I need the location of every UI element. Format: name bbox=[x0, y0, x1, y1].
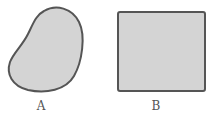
shape-b-square bbox=[118, 12, 205, 91]
shape-a-blob bbox=[9, 8, 83, 92]
label-b: B bbox=[146, 99, 166, 113]
label-a: A bbox=[31, 99, 51, 113]
